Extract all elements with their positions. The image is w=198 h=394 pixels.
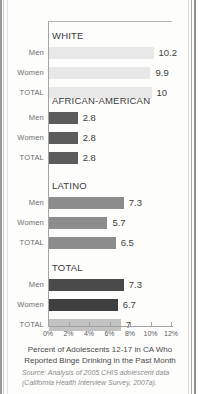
x-axis-tick-label: 12%: [159, 330, 183, 337]
bar-value-label: 10: [157, 86, 168, 100]
bar: [49, 197, 124, 209]
caption-line-2: Reported Binge Drinking in the Past Mont…: [16, 356, 184, 367]
x-axis-tick: [151, 322, 152, 327]
row-label: Men: [0, 111, 44, 125]
chart-source-note: Source: Analysis of 2005 CHIS adolescent…: [22, 368, 186, 387]
row-label: Men: [0, 46, 44, 60]
bar: [49, 152, 78, 164]
chart-top-rule: [48, 21, 172, 22]
caption-line-1: Percent of Adolescents 12-17 in CA Who: [16, 345, 184, 356]
chart-caption: Percent of Adolescents 12-17 in CA Who R…: [16, 345, 184, 366]
bar: [49, 279, 124, 291]
bar-value-label: 10.2: [159, 46, 178, 60]
bar-value-label: 7.3: [129, 278, 142, 292]
chart-row: Men7.3: [0, 196, 198, 210]
group-title: AFRICAN-AMERICAN: [52, 95, 150, 106]
row-label: Men: [0, 196, 44, 210]
bar: [49, 132, 78, 144]
row-label: Women: [0, 66, 44, 80]
row-label: Men: [0, 278, 44, 292]
x-axis-tick: [171, 322, 172, 327]
chart-row: TOTAL2.8: [0, 151, 198, 165]
chart-row: Men7.3: [0, 278, 198, 292]
chart-row: Men2.8: [0, 111, 198, 125]
chart-row: Women2.8: [0, 131, 198, 145]
group-title: WHITE: [52, 30, 84, 41]
bar: [49, 217, 107, 229]
bar-value-label: 6.7: [123, 298, 136, 312]
chart-row: Women6.7: [0, 298, 198, 312]
row-label: TOTAL: [0, 151, 44, 165]
bar: [49, 237, 116, 249]
bar: [49, 67, 150, 79]
source-line-1: Source: Analysis of 2005 CHIS adolescent…: [22, 368, 186, 378]
row-label: Women: [0, 216, 44, 230]
x-axis-line: [48, 326, 173, 327]
x-axis-tick: [69, 322, 70, 327]
group-title: TOTAL: [52, 262, 83, 273]
x-axis-tick: [110, 322, 111, 327]
bar-chart: WHITEMen10.2Women9.9TOTAL10AFRICAN-AMERI…: [0, 0, 198, 394]
row-label: TOTAL: [0, 236, 44, 250]
x-axis-tick: [89, 322, 90, 327]
chart-row: TOTAL6.5: [0, 236, 198, 250]
row-label: Women: [0, 131, 44, 145]
bar-value-label: 5.7: [112, 216, 125, 230]
bar-value-label: 2.8: [83, 111, 96, 125]
bar: [49, 47, 154, 59]
bar: [49, 299, 118, 311]
row-label: Women: [0, 298, 44, 312]
row-label: TOTAL: [0, 86, 44, 100]
bar-value-label: 7.3: [129, 196, 142, 210]
chart-row: Women5.7: [0, 216, 198, 230]
x-axis-tick: [130, 322, 131, 327]
scanned-page: · · · WHITEMen10.2Women9.9TOTAL10AFRICAN…: [0, 0, 198, 394]
chart-row: Women9.9: [0, 66, 198, 80]
bar: [49, 112, 78, 124]
x-axis-tick: [48, 322, 49, 327]
bar-value-label: 9.9: [155, 66, 168, 80]
bar-value-label: 6.5: [121, 236, 134, 250]
group-title: LATINO: [52, 180, 87, 191]
source-line-2: (California Health Interview Survey, 200…: [22, 378, 186, 388]
bar-value-label: 2.8: [83, 151, 96, 165]
chart-row: Men10.2: [0, 46, 198, 60]
bar-value-label: 2.8: [83, 131, 96, 145]
